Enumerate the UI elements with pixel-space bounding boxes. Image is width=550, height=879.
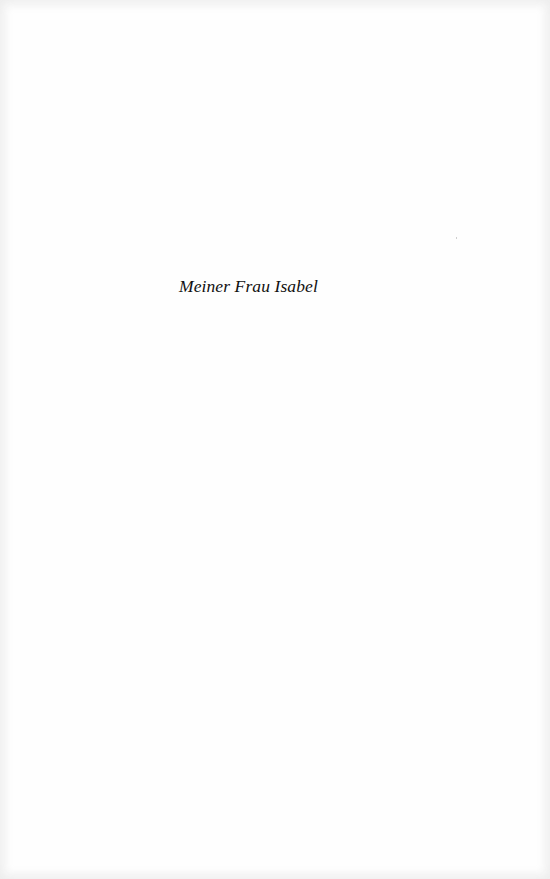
dedication-text: Meiner Frau Isabel	[179, 276, 318, 297]
book-page: Meiner Frau Isabel	[0, 0, 550, 879]
scan-artifact	[456, 237, 457, 239]
